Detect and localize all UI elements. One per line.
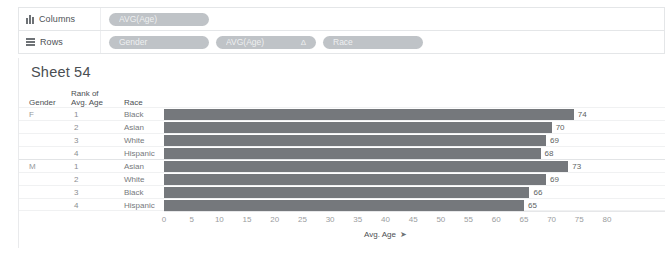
rows-shelf[interactable]: Rows Gender AVG(Age) Δ Race bbox=[18, 30, 665, 54]
x-axis: 05101520253035404550556065707580 Avg. Ag… bbox=[19, 211, 665, 247]
bar-value-label: 68 bbox=[545, 149, 554, 158]
axis-tick-label: 20 bbox=[270, 215, 279, 224]
table-row[interactable]: 4Hispanic68 bbox=[19, 146, 665, 159]
table-row[interactable]: 2Asian70 bbox=[19, 120, 665, 133]
axis-tick-label: 50 bbox=[436, 215, 445, 224]
axis-line bbox=[164, 211, 665, 212]
axis-title-label: Avg. Age bbox=[364, 230, 396, 239]
cell-rank: 2 bbox=[74, 123, 78, 132]
worksheet-view: Sheet 54 Gender Rank of Avg. Age Race F1… bbox=[18, 58, 665, 248]
column-header-rank-line2: Avg. Age bbox=[71, 98, 103, 107]
bar-mark[interactable] bbox=[164, 109, 574, 120]
plot-cell: 74 bbox=[164, 108, 665, 120]
pill-label: AVG(Age) bbox=[119, 14, 157, 24]
cell-rank: 3 bbox=[74, 136, 78, 145]
bar-mark[interactable] bbox=[164, 135, 546, 146]
pill-label: Gender bbox=[119, 37, 147, 47]
delta-icon: Δ bbox=[295, 38, 306, 47]
axis-tick-label: 80 bbox=[603, 215, 612, 224]
table-row[interactable]: M1Asian73 bbox=[19, 159, 665, 172]
cell-race: Black bbox=[124, 110, 144, 119]
columns-icon bbox=[26, 15, 34, 24]
rows-shelf-label-cell: Rows bbox=[19, 31, 101, 53]
plot-cell: 65 bbox=[164, 199, 665, 210]
bar-mark[interactable] bbox=[164, 122, 552, 133]
bar-value-label: 69 bbox=[550, 175, 559, 184]
cell-rank: 4 bbox=[74, 201, 78, 210]
pill-avg-age-rows[interactable]: AVG(Age) Δ bbox=[216, 36, 316, 49]
table-header-row: Gender Rank of Avg. Age Race bbox=[19, 86, 665, 107]
columns-pill-track[interactable]: AVG(Age) bbox=[101, 8, 209, 30]
axis-tick-label: 0 bbox=[162, 215, 166, 224]
rows-icon bbox=[26, 38, 35, 47]
cell-race: Hispanic bbox=[124, 201, 155, 210]
column-header-rank-of-avg-age[interactable]: Rank of Avg. Age bbox=[71, 89, 103, 107]
column-header-rank-line1: Rank of bbox=[71, 89, 103, 98]
column-header-gender[interactable]: Gender bbox=[29, 98, 56, 107]
columns-shelf-label: Columns bbox=[39, 14, 75, 24]
axis-tick-label: 40 bbox=[381, 215, 390, 224]
pill-label: Race bbox=[333, 37, 353, 47]
cell-rank: 2 bbox=[74, 175, 78, 184]
axis-tick-label: 25 bbox=[298, 215, 307, 224]
rows-pill-track[interactable]: Gender AVG(Age) Δ Race bbox=[101, 31, 423, 53]
shelf-area: Columns AVG(Age) Rows Gender AVG(Age) Δ … bbox=[18, 7, 665, 54]
bar-mark[interactable] bbox=[164, 200, 524, 211]
pill-avg-age-columns[interactable]: AVG(Age) bbox=[109, 13, 209, 26]
bar-value-label: 73 bbox=[572, 162, 581, 171]
columns-shelf-label-cell: Columns bbox=[19, 8, 101, 30]
axis-tick-label: 30 bbox=[326, 215, 335, 224]
cell-race: Asian bbox=[124, 123, 144, 132]
cell-gender: M bbox=[29, 162, 36, 171]
bar-value-label: 69 bbox=[550, 136, 559, 145]
columns-shelf[interactable]: Columns AVG(Age) bbox=[18, 7, 665, 30]
table-row[interactable]: 4Hispanic65 bbox=[19, 198, 665, 211]
table-row[interactable]: 3White69 bbox=[19, 133, 665, 146]
axis-tick-label: 70 bbox=[547, 215, 556, 224]
column-header-race[interactable]: Race bbox=[124, 98, 143, 107]
cell-rank: 4 bbox=[74, 149, 78, 158]
bar-mark[interactable] bbox=[164, 187, 529, 198]
cell-race: White bbox=[124, 136, 144, 145]
bar-value-label: 66 bbox=[533, 188, 542, 197]
axis-tick-label: 60 bbox=[492, 215, 501, 224]
cell-rank: 1 bbox=[74, 110, 78, 119]
bar-mark[interactable] bbox=[164, 174, 546, 185]
axis-tick-label: 15 bbox=[243, 215, 252, 224]
axis-tick-label: 75 bbox=[575, 215, 584, 224]
table-row[interactable]: 3Black66 bbox=[19, 185, 665, 198]
plot-cell: 69 bbox=[164, 134, 665, 146]
bar-mark[interactable] bbox=[164, 148, 541, 159]
pill-race[interactable]: Race bbox=[323, 36, 423, 49]
page-title: Sheet 54 bbox=[31, 64, 91, 80]
cell-race: Asian bbox=[124, 162, 144, 171]
axis-tick-label: 10 bbox=[215, 215, 224, 224]
table-row[interactable]: 2White69 bbox=[19, 172, 665, 185]
cell-rank: 1 bbox=[74, 162, 78, 171]
plot-cell: 70 bbox=[164, 121, 665, 133]
data-grid: F1Black742Asian703White694Hispanic68M1As… bbox=[19, 107, 665, 211]
plot-cell: 73 bbox=[164, 160, 665, 172]
cell-rank: 3 bbox=[74, 188, 78, 197]
cell-race: Hispanic bbox=[124, 149, 155, 158]
cell-race: White bbox=[124, 175, 144, 184]
bar-value-label: 74 bbox=[578, 110, 587, 119]
rows-shelf-label: Rows bbox=[40, 37, 63, 47]
axis-tick-label: 35 bbox=[353, 215, 362, 224]
cell-race: Black bbox=[124, 188, 144, 197]
plot-cell: 66 bbox=[164, 186, 665, 198]
bar-value-label: 70 bbox=[556, 123, 565, 132]
plot-cell: 68 bbox=[164, 147, 665, 159]
axis-tick-label: 45 bbox=[409, 215, 418, 224]
pill-gender[interactable]: Gender bbox=[109, 36, 209, 49]
bar-value-label: 65 bbox=[528, 201, 537, 210]
pill-label: AVG(Age) bbox=[226, 37, 264, 47]
cell-gender: F bbox=[29, 110, 34, 119]
plot-cell: 69 bbox=[164, 173, 665, 185]
pin-icon: ➤ bbox=[400, 230, 407, 239]
axis-tick-label: 5 bbox=[189, 215, 193, 224]
bar-mark[interactable] bbox=[164, 161, 568, 172]
axis-tick-label: 65 bbox=[519, 215, 528, 224]
table-row[interactable]: F1Black74 bbox=[19, 107, 665, 120]
axis-title[interactable]: Avg. Age ➤ bbox=[364, 230, 407, 239]
